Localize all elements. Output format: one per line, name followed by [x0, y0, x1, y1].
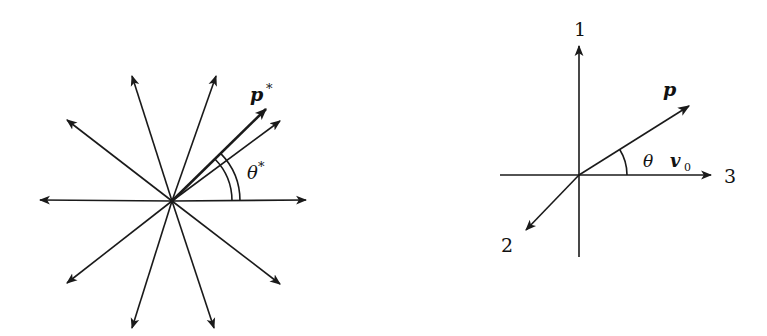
- theta-star-superscript: *: [258, 159, 265, 174]
- horizontal-arrow-right: [172, 200, 306, 201]
- theta-star-label: θ: [247, 162, 258, 183]
- momentum-p-star-arrow: [172, 109, 266, 201]
- axis-2-label: 2: [501, 234, 513, 256]
- p-label: p: [663, 78, 677, 100]
- arrow-up-left: [132, 76, 172, 201]
- left-diagram: p * θ *: [40, 76, 306, 328]
- v0-label: v: [670, 150, 681, 171]
- right-diagram: 1 2 3 p θ v 0: [500, 18, 736, 257]
- axis-2: [526, 175, 579, 230]
- theta-label: θ: [643, 151, 653, 171]
- arrow-diag-lower-right: [172, 201, 280, 284]
- diagram-canvas: p * θ * 1 2 3 p θ v 0: [0, 0, 767, 336]
- angle-arc-outer: [221, 153, 240, 201]
- p-star-superscript: *: [266, 81, 273, 96]
- arrow-diag-upper-left: [67, 120, 172, 201]
- axis-3-label: 3: [724, 165, 736, 187]
- v0-subscript: 0: [684, 161, 691, 174]
- arrow-up-right: [172, 76, 216, 201]
- horizontal-arrow-left: [40, 200, 172, 201]
- arrow-diag-lower-left: [67, 201, 172, 283]
- origin-point: [170, 199, 174, 203]
- axis-1-label: 1: [574, 18, 586, 40]
- arrow-down-left: [132, 201, 172, 328]
- p-star-label: p: [250, 83, 264, 105]
- arrow-down-right: [172, 201, 214, 328]
- theta-angle-arc: [620, 150, 627, 176]
